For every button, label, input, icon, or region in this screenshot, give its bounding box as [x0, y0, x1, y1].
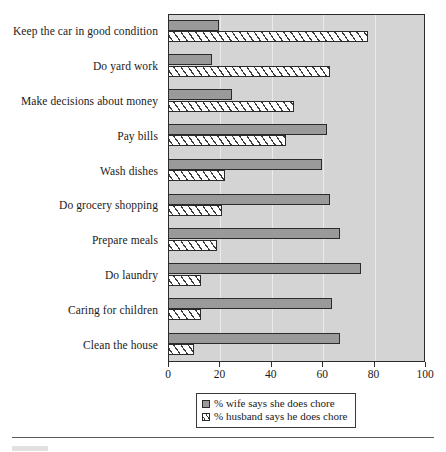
bar-group	[168, 14, 425, 49]
bar-husband	[168, 170, 225, 181]
bar-wife	[168, 228, 340, 239]
bar-wife	[168, 54, 212, 65]
category-label: Clean the house	[83, 327, 158, 362]
bar-husband	[168, 344, 194, 355]
legend-swatch-husband-icon	[202, 413, 210, 421]
category-label: Make decisions about money	[21, 84, 158, 119]
x-tick-mark	[271, 362, 272, 367]
category-axis-labels: Keep the car in good conditionDo yard wo…	[0, 14, 164, 362]
x-tick-label: 100	[416, 368, 433, 380]
x-tick-label: 60	[316, 368, 328, 380]
bar-husband	[168, 240, 217, 251]
x-tick-label: 80	[368, 368, 380, 380]
x-tick-mark	[322, 362, 323, 367]
x-tick-label: 40	[265, 368, 277, 380]
bar-wife	[168, 124, 327, 135]
legend-swatch-wife-icon	[202, 400, 210, 408]
x-tick-label: 20	[214, 368, 226, 380]
bar-husband	[168, 205, 222, 216]
footer-mark	[12, 446, 48, 451]
bar-wife	[168, 20, 219, 31]
bar-group	[168, 258, 425, 293]
category-label: Wash dishes	[100, 153, 158, 188]
x-tick-mark	[425, 362, 426, 367]
category-label: Do laundry	[105, 258, 158, 293]
footer-divider	[12, 437, 434, 438]
bar-group	[168, 118, 425, 153]
category-label: Caring for children	[68, 292, 158, 327]
category-label: Pay bills	[117, 118, 158, 153]
bar-husband	[168, 135, 286, 146]
bar-group	[168, 84, 425, 119]
category-label: Prepare meals	[92, 223, 158, 258]
bar-wife	[168, 263, 361, 274]
bar-group	[168, 153, 425, 188]
bar-group	[168, 49, 425, 84]
bar-group	[168, 223, 425, 258]
bar-wife	[168, 298, 332, 309]
bar-husband	[168, 66, 330, 77]
bar-wife	[168, 159, 322, 170]
chart-legend: % wife says she does chore % husband say…	[196, 393, 356, 428]
bar-wife	[168, 89, 232, 100]
category-label: Do grocery shopping	[59, 188, 158, 223]
legend-label-husband: % husband says he does chore	[214, 410, 348, 423]
legend-entry-wife: % wife says she does chore	[202, 397, 348, 410]
legend-label-wife: % wife says she does chore	[214, 397, 335, 410]
bar-husband	[168, 31, 368, 42]
chart-figure: Keep the car in good conditionDo yard wo…	[0, 0, 446, 452]
bar-group	[168, 327, 425, 362]
x-tick-mark	[219, 362, 220, 367]
x-tick-label: 0	[165, 368, 171, 380]
bar-husband	[168, 309, 201, 320]
value-axis: 020406080100	[168, 362, 425, 386]
bar-group	[168, 292, 425, 327]
bars-layer	[168, 14, 425, 362]
category-label: Do yard work	[93, 49, 158, 84]
x-tick-mark	[168, 362, 169, 367]
bar-husband	[168, 101, 294, 112]
bar-wife	[168, 333, 340, 344]
category-label: Keep the car in good condition	[13, 14, 158, 49]
legend-entry-husband: % husband says he does chore	[202, 410, 348, 423]
bar-husband	[168, 275, 201, 286]
bar-wife	[168, 194, 330, 205]
x-tick-mark	[374, 362, 375, 367]
bar-group	[168, 188, 425, 223]
